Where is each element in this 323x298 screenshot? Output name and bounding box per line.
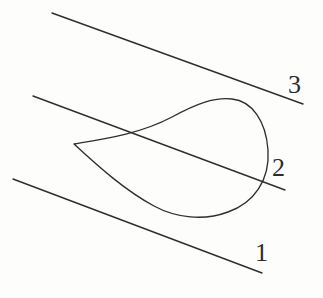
line-2-label: 2: [272, 155, 285, 181]
figure-drawing: [0, 0, 323, 298]
cusp-loop-curve: [74, 99, 268, 218]
line-1-label: 1: [255, 240, 268, 266]
line-2: [33, 96, 285, 190]
line-3-label: 3: [288, 72, 301, 98]
figure-canvas: 1 2 3: [0, 0, 323, 298]
line-1: [13, 179, 262, 273]
line-3: [52, 13, 303, 104]
